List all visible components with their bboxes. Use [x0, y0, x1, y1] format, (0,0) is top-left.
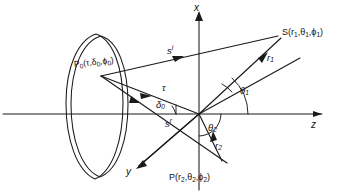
axis-group [3, 11, 322, 190]
theta1-arc [232, 78, 248, 114]
r2-label: r2 [215, 140, 222, 151]
reflector-shell [66, 34, 128, 179]
y-axis-label: y [125, 166, 132, 177]
source-point-label: S(r1,θ1,ϕ1) [282, 27, 323, 37]
observation-point-label: P(r2,θ2,ϕ2) [169, 172, 210, 182]
scattering-geometry-figure: x y z S(r1,θ1,ϕ1) P(r2,θ2,ϕ2) P0(τ,δ0,ϕ0… [0, 0, 344, 195]
s-incident-arrowhead [172, 56, 184, 62]
label-group: x y z S(r1,θ1,ϕ1) P(r2,θ2,ϕ2) P0(τ,δ0,ϕ0… [73, 2, 323, 183]
r1-label: r1 [267, 52, 274, 63]
s-reflected-label: sr [165, 117, 173, 129]
construction-ray-upper [199, 58, 300, 114]
z-axis-label: z [310, 119, 316, 130]
theta1-label: θ1 [240, 85, 249, 96]
theta2-label: θ2 [208, 122, 217, 133]
s-incident-label: si [167, 44, 174, 56]
s-incident-line [101, 36, 278, 76]
shell-ellipse-inner [66, 34, 123, 179]
diagram-canvas: x y z S(r1,θ1,ϕ1) P(r2,θ2,ϕ2) P0(τ,δ0,ϕ0… [0, 0, 344, 195]
tau-label: τ [162, 82, 167, 93]
tau-line [101, 76, 199, 114]
z-axis-arrowhead [313, 111, 322, 117]
delta0-arc-curve [172, 106, 176, 114]
x-axis-label: x [193, 2, 200, 13]
